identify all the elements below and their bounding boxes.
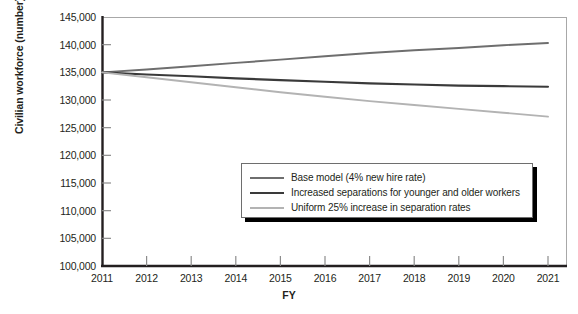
legend-item-increased-separations: Increased separations for younger and ol… xyxy=(250,185,532,200)
series-line xyxy=(102,72,548,116)
legend-item-base-model: Base model (4% new hire rate) xyxy=(250,170,532,185)
data-series-group xyxy=(102,43,548,117)
legend-swatch-uniform-increase xyxy=(250,207,284,209)
x-axis-tick-label: 2019 xyxy=(448,272,471,284)
x-axis-tick-label: 2018 xyxy=(403,272,426,284)
x-axis-tick-label: 2017 xyxy=(358,272,381,284)
legend-swatch-increased-separations xyxy=(250,192,284,194)
x-axis-tick-labels: 2011201220132014201520162017201820192020… xyxy=(0,272,578,288)
x-axis-tick-label: 2014 xyxy=(225,272,248,284)
x-axis-tick-label: 2020 xyxy=(492,272,515,284)
x-axis-title: FY xyxy=(0,289,578,301)
x-axis-ticks xyxy=(147,256,548,266)
legend-label-uniform-increase: Uniform 25% increase in separation rates xyxy=(291,202,470,214)
x-axis-tick-label: 2015 xyxy=(269,272,292,284)
legend-label-increased-separations: Increased separations for younger and ol… xyxy=(291,187,520,199)
x-axis-tick-label: 2012 xyxy=(135,272,158,284)
chart-legend: Base model (4% new hire rate) Increased … xyxy=(241,163,533,218)
series-line xyxy=(102,43,548,72)
plot-frame xyxy=(101,16,567,267)
x-axis-tick-label: 2016 xyxy=(314,272,337,284)
x-axis-tick-label: 2021 xyxy=(537,272,560,284)
x-axis-tick-label: 2013 xyxy=(180,272,203,284)
plot-area xyxy=(0,0,578,314)
x-axis-tick-label: 2011 xyxy=(91,272,113,284)
chart-container: Civilian workforce (number) 100,000105,0… xyxy=(0,0,578,314)
legend-swatch-base-model xyxy=(250,177,284,179)
legend-item-uniform-increase: Uniform 25% increase in separation rates xyxy=(250,200,532,215)
legend-label-base-model: Base model (4% new hire rate) xyxy=(291,172,425,184)
